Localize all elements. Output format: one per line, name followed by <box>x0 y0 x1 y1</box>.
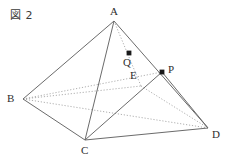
edge-C-D <box>85 128 208 140</box>
vertex-label-c: C <box>81 145 88 156</box>
edge-B-E <box>23 86 141 99</box>
geometry-figure: 図 2 A B C D E P Q <box>0 0 234 160</box>
point-marker-q <box>127 51 132 56</box>
edge-C-P <box>85 72 162 140</box>
edge-A-D <box>114 21 208 128</box>
solid-edge-layer <box>23 21 208 140</box>
vertex-label-b: B <box>7 93 14 104</box>
edge-A-B <box>23 21 114 99</box>
edge-A-C <box>85 21 114 140</box>
edge-E-D <box>141 86 208 128</box>
vertex-label-d: D <box>212 129 220 140</box>
tetrahedron-diagram <box>0 0 234 160</box>
vertex-label-e: E <box>130 70 137 81</box>
edge-P-D <box>162 72 208 128</box>
vertex-label-a: A <box>110 6 118 17</box>
point-marker-p <box>160 70 165 75</box>
dotted-edge-layer <box>23 21 208 128</box>
vertex-label-p: P <box>168 64 174 75</box>
edge-B-C <box>23 99 85 140</box>
vertex-label-q: Q <box>123 57 131 68</box>
